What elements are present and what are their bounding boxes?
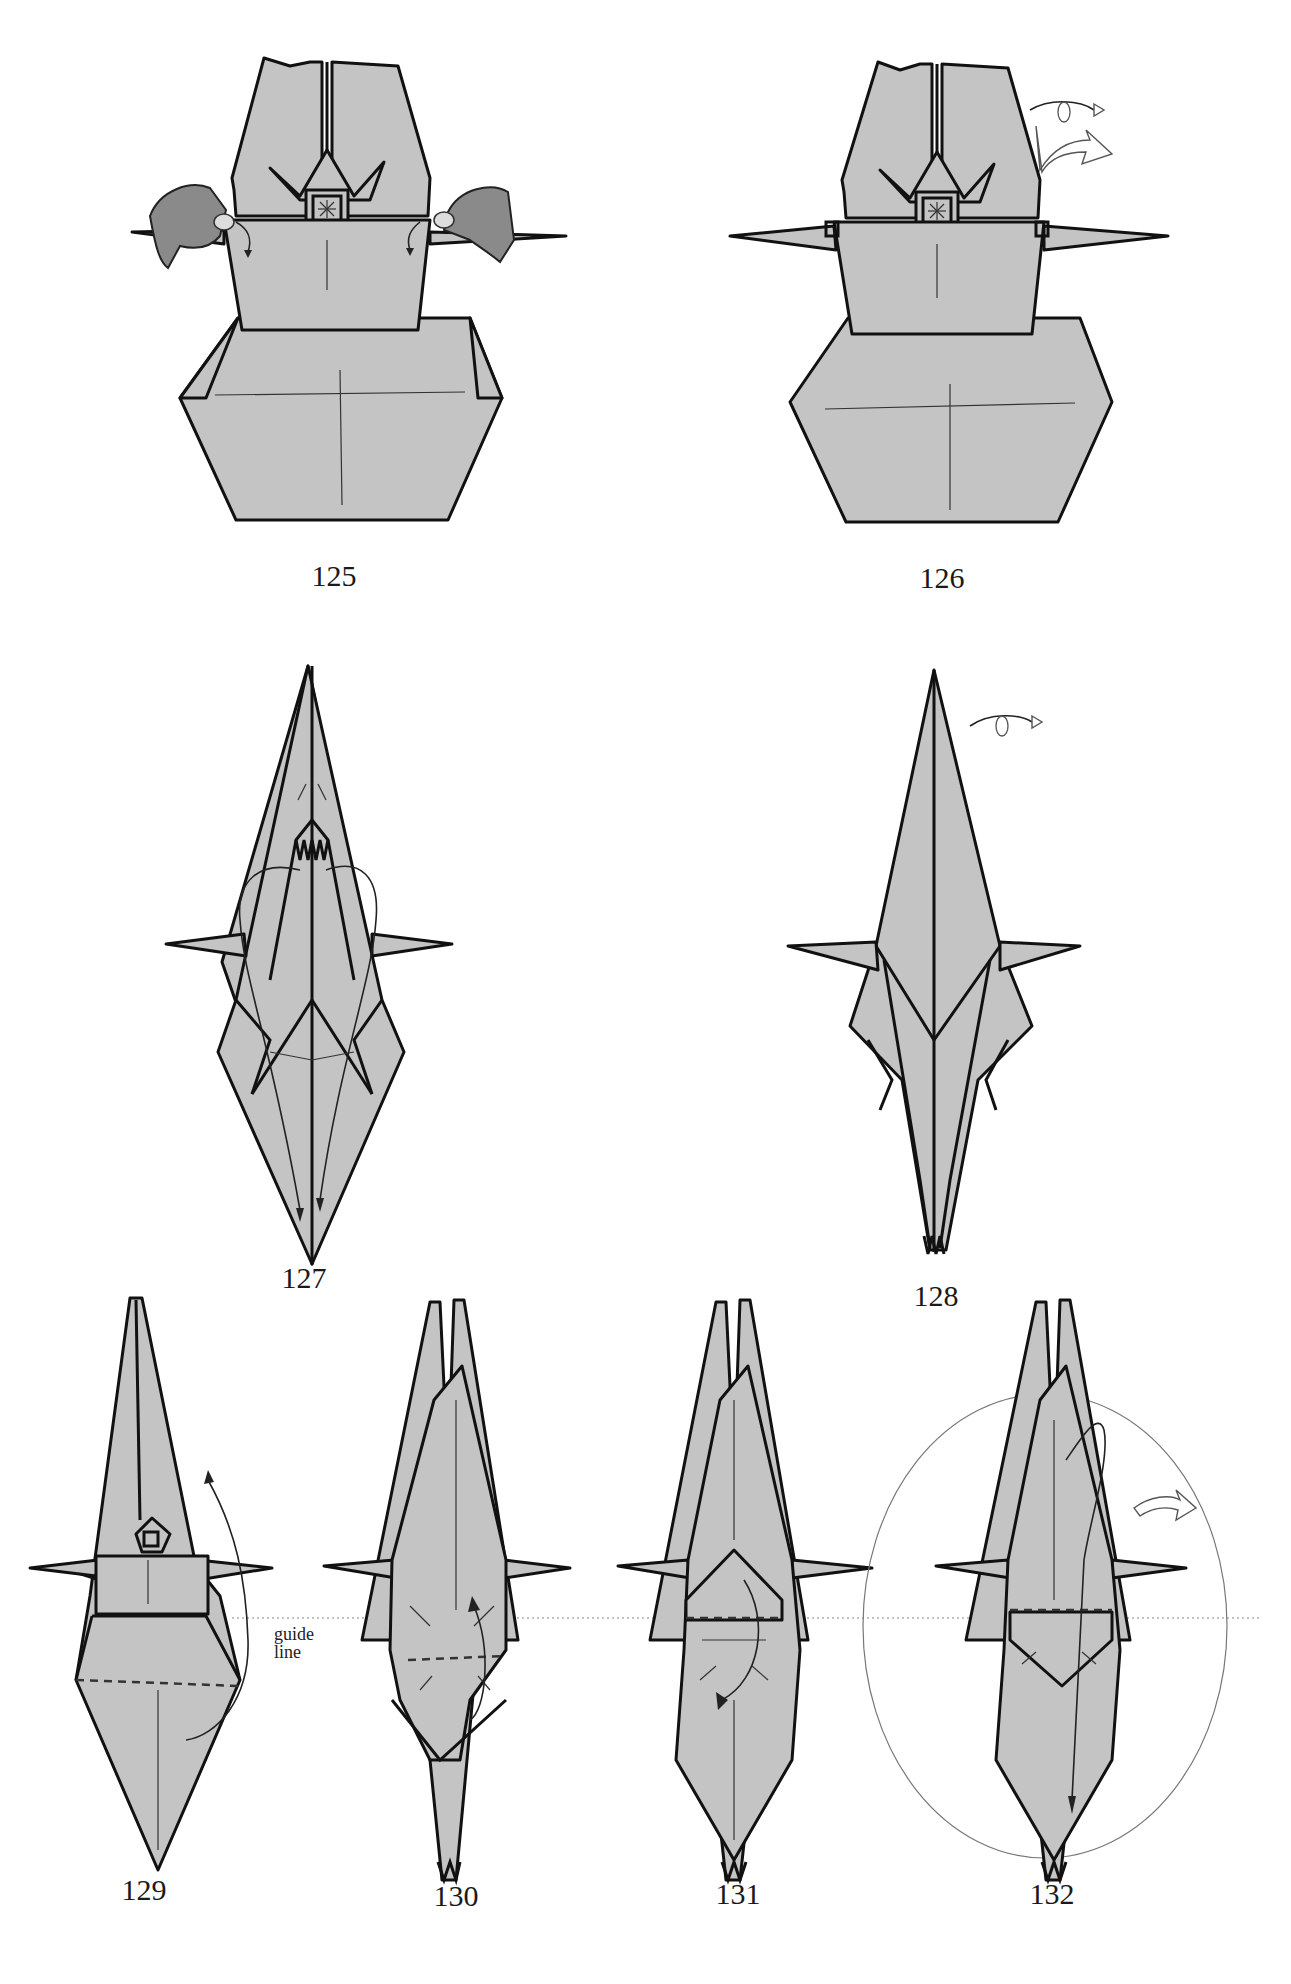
diagram-canvas: 125 126 [0,0,1291,1984]
step-126-figure [730,62,1168,522]
step-128-figure [788,670,1080,1254]
step-127-figure [166,666,452,1264]
asterisk-icon [318,200,336,218]
step-129-number: 129 [122,1873,167,1906]
left-hand-icon [150,185,234,268]
step-131-number: 131 [716,1877,761,1910]
step-128-number: 128 [914,1279,959,1312]
step-127-number: 127 [282,1261,327,1294]
turn-over-icon [1030,102,1104,122]
guide-line-label-word1: guide [274,1624,314,1644]
step-130-figure [324,1300,570,1880]
step-131-figure [618,1300,872,1880]
right-hand-icon [434,187,514,262]
flip-arrow-icon [1134,1490,1196,1520]
rotate-arrow-icon [1036,126,1112,172]
step-132-number: 132 [1030,1877,1075,1910]
guide-line-label-word2: line [274,1642,301,1662]
step-129-figure [30,1298,272,1870]
step-132-figure [863,1300,1227,1880]
step-126-number: 126 [920,561,965,594]
step-125-figure [132,58,566,520]
step-125-number: 125 [312,559,357,592]
asterisk-icon [928,202,946,220]
turn-over-icon [970,716,1042,736]
step-130-number: 130 [434,1879,479,1912]
